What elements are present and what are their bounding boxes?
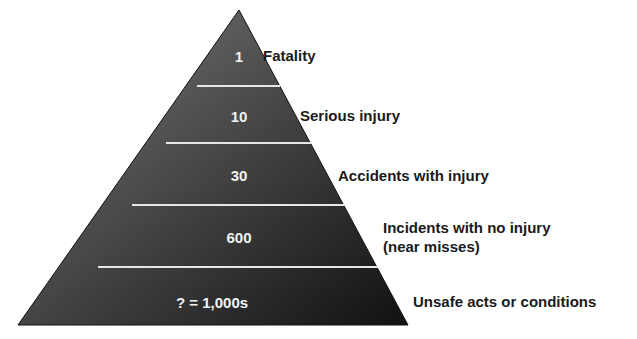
- tier-2-label: Serious injury: [300, 106, 400, 125]
- tier-1-label-text: Fatality: [263, 47, 316, 64]
- tier-1-value: 1: [235, 48, 243, 65]
- pyramid-graphic: [0, 0, 637, 339]
- tier-2-value: 10: [231, 108, 248, 125]
- tier-4-label: Incidents with no injury (near misses): [383, 218, 551, 256]
- tier-4-label-line2: (near misses): [383, 237, 551, 256]
- tier-2-label-text: Serious injury: [300, 107, 400, 124]
- tier-3-value: 30: [231, 167, 248, 184]
- tier-4-value: 600: [226, 229, 251, 246]
- tier-5-label-text: Unsafe acts or conditions: [413, 293, 596, 310]
- tier-5-value: ? = 1,000s: [176, 294, 248, 311]
- tier-5-label: Unsafe acts or conditions: [413, 292, 596, 311]
- tier-1-label: Fatality: [263, 46, 316, 65]
- tier-3-label-text: Accidents with injury: [338, 167, 489, 184]
- tier-4-label-line1: Incidents with no injury: [383, 218, 551, 237]
- tier-3-label: Accidents with injury: [338, 166, 489, 185]
